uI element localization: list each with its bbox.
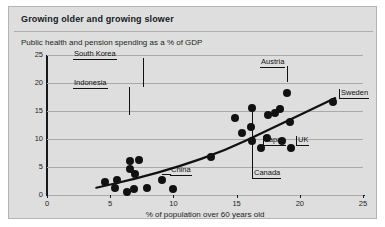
data-point xyxy=(247,123,255,131)
y-tick-label: 15 xyxy=(35,107,43,115)
y-tick-label: 5 xyxy=(39,163,43,171)
y-tick-label: 20 xyxy=(35,79,43,87)
x-axis-title: % of population over 60 years old xyxy=(47,210,363,219)
x-tick-mark xyxy=(47,195,48,198)
leader-austria xyxy=(287,66,288,82)
title-divider xyxy=(14,31,373,32)
data-point xyxy=(135,156,143,164)
plot-area: 0510152025 0510152025 South Korea Indone… xyxy=(47,55,363,195)
leader-indonesia xyxy=(129,87,130,115)
data-point xyxy=(111,184,119,192)
leader-canada xyxy=(252,111,253,177)
y-tick-label: 10 xyxy=(35,135,43,143)
annotation-indonesia: Indonesia xyxy=(73,79,108,89)
data-point-uk xyxy=(287,144,295,152)
x-tick-label: 0 xyxy=(45,200,49,208)
x-tick-label: 10 xyxy=(169,200,177,208)
data-point xyxy=(238,129,246,137)
data-point xyxy=(286,118,294,126)
y-axis-line xyxy=(46,55,48,195)
chart-subtitle: Public health and pension spending as a … xyxy=(21,38,202,47)
annotation-japan: Japan xyxy=(263,136,286,146)
x-tick-label: 25 xyxy=(359,200,367,208)
data-point-sweden xyxy=(329,98,337,106)
x-tick-mark xyxy=(237,195,238,198)
chart-title: Growing older and growing slower xyxy=(21,14,174,24)
x-tick-mark xyxy=(300,195,301,198)
y-tick-label: 25 xyxy=(35,51,43,59)
annotation-china: China xyxy=(170,166,192,176)
x-tick-label: 15 xyxy=(232,200,240,208)
x-tick-mark xyxy=(363,195,364,198)
chart-card: Growing older and growing slower Public … xyxy=(8,6,377,219)
annotation-uk: UK xyxy=(296,136,309,146)
annotation-sweden: Sweden xyxy=(339,89,369,99)
data-point-south-korea xyxy=(126,157,134,165)
leader-south-korea xyxy=(143,58,144,87)
annotation-austria: Austria xyxy=(260,58,285,68)
data-point-austria xyxy=(283,89,291,97)
gridline xyxy=(47,167,363,168)
data-point xyxy=(113,176,121,184)
x-tick-label: 20 xyxy=(296,200,304,208)
y-tick-label: 0 xyxy=(39,191,43,199)
x-tick-label: 5 xyxy=(108,200,112,208)
gridline xyxy=(47,111,363,112)
annotation-canada: Canada xyxy=(252,169,281,179)
data-point xyxy=(130,185,138,193)
data-point xyxy=(276,105,284,113)
data-point xyxy=(101,178,109,186)
gridline xyxy=(47,195,363,196)
x-tick-mark xyxy=(110,195,111,198)
data-point xyxy=(131,170,139,178)
gridline xyxy=(47,139,363,140)
data-point xyxy=(158,176,166,184)
data-point xyxy=(143,184,151,192)
trend-line xyxy=(47,55,363,195)
data-point-china xyxy=(169,185,177,193)
x-tick-mark xyxy=(173,195,174,198)
annotation-south-korea: South Korea xyxy=(73,50,117,60)
leader-china xyxy=(162,174,171,175)
data-point xyxy=(231,114,239,122)
data-point xyxy=(207,153,215,161)
